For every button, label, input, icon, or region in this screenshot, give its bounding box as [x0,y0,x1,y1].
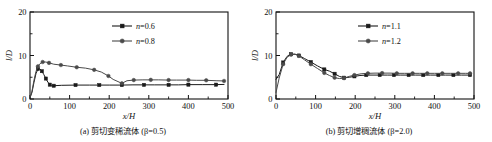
panel-b-series [276,53,472,93]
series-marker-square [452,73,455,76]
y-tick-label: 20 [264,8,272,17]
y-axis-title-group: l/D [4,49,14,61]
x-tick-label: 300 [143,102,156,111]
series-marker-circle [187,78,191,82]
series-marker-circle [411,72,415,76]
x-tick-label: 100 [63,102,76,111]
x-tick-label: 500 [222,102,235,111]
series-marker-circle [441,72,445,76]
panel-b-plot: 010020030040050001020x/Hl/D n=1.1n=1.2 [246,0,492,142]
panel-a: 010020030040050001020x/Hl/D n=0.6n=0.8 (… [0,0,246,142]
panel-a-series [30,60,226,97]
series-marker-square [48,83,51,86]
legend-marker-circle [366,39,370,43]
x-tick-label: 300 [389,102,402,111]
panel-b-legend: n=1.1n=1.2 [358,22,401,46]
series-marker-circle [47,61,51,65]
series-marker-circle [468,72,472,76]
series-marker-circle [120,82,124,86]
legend-marker-square [120,24,124,28]
series-marker-square [52,84,55,87]
x-tick-label: 500 [468,102,481,111]
series-marker-circle [107,74,111,78]
series-marker-circle [425,72,429,76]
series-marker-circle [297,54,301,58]
series-marker-circle [353,73,357,77]
panel-a-plot: 010020030040050001020x/Hl/D n=0.6n=0.8 [0,0,246,142]
series-marker-square [142,83,145,86]
series-marker-circle [333,76,337,80]
series-marker-circle [289,53,293,57]
series-marker-circle [456,72,460,76]
series-marker-circle [132,78,136,82]
x-tick-label: 400 [182,102,195,111]
series-marker-square [437,73,440,76]
series-marker-circle [380,71,384,75]
series-marker-circle [395,72,399,76]
series-marker-square [215,83,218,86]
x-tick-label: 200 [349,102,362,111]
series-marker-circle [366,72,370,76]
series-marker-square [40,70,43,73]
series-marker-square [44,77,47,80]
series-marker-circle [41,60,45,64]
legend-label-0: n=0.6 [136,22,155,31]
series-marker-circle [36,65,40,69]
plot-frame [276,12,474,99]
series-marker-circle [342,76,346,80]
figure-container: 010020030040050001020x/Hl/D n=0.6n=0.8 (… [0,0,492,142]
x-tick-label: 100 [309,102,322,111]
series-line-n06 [30,69,224,98]
x-tick-label: 0 [274,102,278,111]
panel-b: 010020030040050001020x/Hl/D n=1.1n=1.2 (… [246,0,492,142]
series-line-n11 [276,54,470,79]
series-marker-square [74,83,77,86]
y-tick-label: 0 [268,95,272,104]
y-tick-label: 10 [18,52,26,61]
series-line-n08 [30,62,224,98]
x-axis-title: x/H [368,111,382,121]
series-marker-circle [222,79,226,83]
panel-a-caption: (a) 剪切变稀流体 (β=0.5) [0,124,246,136]
series-marker-square [407,73,410,76]
series-marker-square [187,83,190,86]
series-marker-circle [92,68,96,72]
legend-label-1: n=0.8 [136,37,155,46]
series-marker-circle [149,78,153,82]
series-marker-circle [281,62,285,66]
series-marker-square [333,72,336,75]
series-marker-circle [75,65,79,69]
panel-a-legend: n=0.6n=0.8 [112,22,155,46]
series-marker-square [98,83,101,86]
legend-marker-square [366,24,370,28]
y-axis-title-group: l/D [250,49,260,61]
x-tick-label: 200 [103,102,116,111]
legend-label-0: n=1.1 [382,22,401,31]
series-marker-circle [323,71,327,75]
x-tick-label: 400 [428,102,441,111]
legend-marker-circle [120,39,124,43]
series-marker-circle [59,63,63,67]
series-marker-square [422,73,425,76]
series-marker-circle [204,78,208,82]
panel-a-caption-text: (a) 剪切变稀流体 (β=0.5) [80,127,166,136]
y-tick-label: 20 [18,8,26,17]
panel-b-caption: (b) 剪切增稠流体 (β=2.0) [246,124,492,136]
panel-b-caption-text: (b) 剪切增稠流体 (β=2.0) [326,127,413,136]
y-axis-title: l/D [4,49,14,61]
plot-frame [30,12,228,99]
x-tick-label: 0 [28,102,32,111]
y-tick-label: 0 [22,95,26,104]
series-marker-circle [167,78,171,82]
series-marker-circle [309,62,313,66]
y-axis-title: l/D [250,49,260,61]
series-marker-square [323,68,326,71]
series-marker-square [167,83,170,86]
y-tick-label: 10 [264,52,272,61]
x-axis-title: x/H [122,111,136,121]
legend-label-1: n=1.2 [382,37,401,46]
